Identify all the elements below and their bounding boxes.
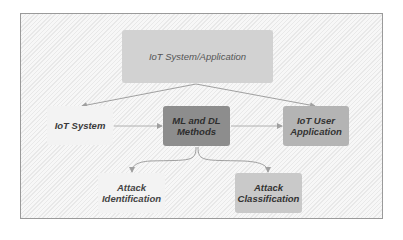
node-label-line2: Classification bbox=[238, 193, 300, 204]
node-label-line2: Application bbox=[290, 126, 342, 137]
node-label-line1: ML and DL bbox=[172, 115, 220, 126]
node-attack-identification: Attack Identification bbox=[98, 173, 165, 213]
node-label: IoT System bbox=[55, 120, 106, 131]
node-attack-classification: Attack Classification bbox=[235, 173, 302, 213]
node-ml-dl-methods: ML and DL Methods bbox=[163, 106, 230, 146]
node-label: IoT System/Application bbox=[149, 51, 246, 62]
node-iot-system: IoT System bbox=[47, 106, 113, 145]
node-iot-user-application: IoT User Application bbox=[283, 106, 349, 146]
node-label-line1: Attack bbox=[238, 182, 300, 193]
node-label-line2: Identification bbox=[102, 193, 161, 204]
node-label-line1: IoT User bbox=[290, 115, 342, 126]
node-label-line1: Attack bbox=[102, 182, 161, 193]
node-label-line2: Methods bbox=[172, 126, 220, 137]
node-iot-system-application: IoT System/Application bbox=[122, 30, 273, 83]
